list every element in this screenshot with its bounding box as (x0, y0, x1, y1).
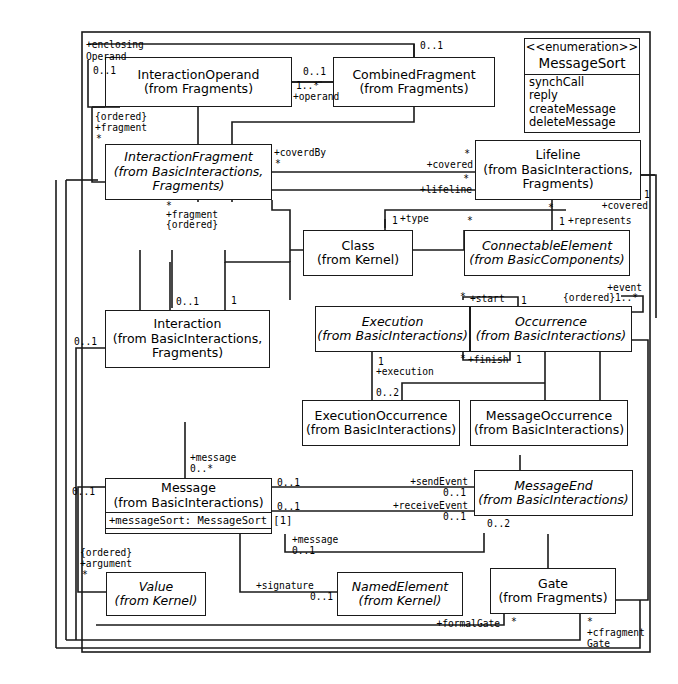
class-name-compartment: Execution (from BasicInteractions) (316, 307, 469, 351)
class-package: (from BasicInteractions) (474, 423, 624, 438)
class-package-2: Fragments) (522, 177, 593, 192)
class-box-message[interactable]: Message (from BasicInteractions) +messag… (105, 478, 272, 534)
class-package-2: Fragments) (152, 179, 224, 194)
class-box-messageoccurrence[interactable]: MessageOccurrence (from BasicInteraction… (470, 400, 628, 446)
class-package: (from Fragments) (359, 82, 468, 97)
class-box-interactionfragment[interactable]: InteractionFragment (from BasicInteracti… (105, 144, 272, 200)
edge-label-fragment2-ordered: {ordered} (166, 220, 218, 231)
class-box-executionoccurrence[interactable]: ExecutionOccurrence (from BasicInteracti… (302, 400, 460, 446)
class-name: NamedElement (352, 580, 449, 595)
enumeration-box-messagesort[interactable]: <<enumeration>> MessageSort synchCall re… (524, 38, 640, 133)
class-package: (from Kernel) (359, 594, 442, 609)
edge-label-enclosing-operand: +enclosing (86, 40, 144, 51)
class-package: (from BasicInteractions) (317, 329, 468, 344)
edge-label-operand-role: +operand (293, 92, 339, 103)
class-package: (from Kernel) (317, 253, 399, 268)
edge-label-start-mult: 1 (521, 296, 527, 307)
enumeration-literal: synchCall (529, 76, 639, 90)
edge-label-lifeline-star: * (400, 174, 469, 185)
class-name-compartment: Class (from Kernel) (304, 231, 412, 275)
edge-label-finish-star: * (460, 354, 466, 365)
edge-label-formalgate-role: +formalGate (420, 619, 500, 630)
class-box-interactionoperand[interactable]: InteractionOperand (from Fragments) (105, 57, 292, 107)
class-name-compartment: Lifeline (from BasicInteractions, Fragme… (476, 141, 640, 199)
class-package: (from BasicInteractions) (478, 493, 629, 508)
class-name: Interaction (154, 317, 222, 332)
class-name: MessageEnd (514, 479, 593, 494)
edge-label-lifeline-covered-mult: 1 (644, 190, 650, 201)
class-name-compartment: Message (from BasicInteractions) (106, 479, 271, 512)
edge-label-enclosing-operand-2: Operand (86, 52, 126, 63)
class-box-messageend[interactable]: MessageEnd (from BasicInteractions) (474, 470, 633, 516)
edge-label-start-role: +start (470, 294, 505, 305)
class-package: (from BasicInteractions, (483, 163, 632, 178)
class-name-compartment: InteractionOperand (from Fragments) (106, 58, 291, 106)
class-package: (from BasicComponents) (469, 253, 624, 268)
edge-label-type-mult: 1 (392, 216, 398, 227)
edge-label-represents-mult: 1 (559, 217, 565, 228)
edge-label-fragment-star: * (96, 134, 102, 145)
class-package: (from Fragments) (498, 591, 607, 606)
edge-label-type-role: +type (400, 214, 429, 225)
edge-label-message2-role: +message (292, 535, 338, 546)
class-package: (from BasicInteractions) (476, 329, 627, 344)
edge-label-execution-star: * (460, 292, 466, 303)
class-name-compartment: NamedElement (from Kernel) (338, 573, 462, 615)
class-name: Gate (538, 577, 568, 592)
edge-label-interaction-mult: 0..1 (176, 297, 199, 308)
edge-label-event-mult: 1..* (615, 293, 638, 304)
edge-execocc-rail (402, 383, 545, 400)
class-box-execution[interactable]: Execution (from BasicInteractions) (315, 306, 470, 352)
class-box-combinedfragment[interactable]: CombinedFragment (from Fragments) (333, 57, 495, 107)
class-box-value[interactable]: Value (from Kernel) (106, 572, 206, 616)
class-name: Class (342, 239, 375, 254)
edge-label-cfragmentgate-role: +cfragment (587, 628, 645, 639)
edge-label-represents-role: +represents (568, 216, 632, 227)
class-box-gate[interactable]: Gate (from Fragments) (490, 568, 616, 614)
class-box-interaction[interactable]: Interaction (from BasicInteractions, Fra… (105, 310, 270, 368)
edge-label-fragment-ordered: {ordered} (95, 112, 147, 123)
class-box-class[interactable]: Class (from Kernel) (303, 230, 413, 276)
edge-label-argument-star: * (82, 570, 88, 581)
edge-label-receiveevent-role: +receiveEvent (380, 501, 468, 512)
class-package: (from BasicInteractions) (306, 423, 456, 438)
uml-class-diagram: InteractionOperand --> Lifeline --> Inte… (0, 0, 678, 684)
edge-label-sendevent-mult: 0..1 (396, 488, 466, 499)
class-name: Occurrence (515, 315, 587, 330)
edge-label-interaction-left-mult: 0..1 (74, 337, 97, 348)
edge-label-interaction-mult2: 1 (231, 296, 237, 307)
edge-label-lifeline-star2: * (548, 203, 554, 214)
edge-label-enclosing-operand-mult: 0..1 (93, 66, 116, 77)
edge-label-lifeline-role: +lifeline (400, 185, 472, 196)
class-box-namedelement[interactable]: NamedElement (from Kernel) (337, 572, 463, 616)
class-box-lifeline[interactable]: Lifeline (from BasicInteractions, Fragme… (475, 140, 641, 200)
edge-label-message2-mult: 0..1 (292, 546, 315, 557)
class-box-connectableelement[interactable]: ConnectableElement (from BasicComponents… (464, 230, 630, 276)
class-name-compartment: Gate (from Fragments) (491, 569, 615, 613)
edge-label-messageend-mult: 0..2 (487, 519, 510, 530)
class-name: InteractionFragment (124, 150, 252, 165)
class-name-compartment: CombinedFragment (from Fragments) (334, 58, 494, 106)
class-name: Message (161, 481, 216, 496)
edge-label-sendevent-role: +sendEvent (396, 477, 468, 488)
edge-label-coverdby-star: * (275, 159, 281, 170)
class-name: MessageOccurrence (486, 409, 612, 424)
enumeration-literal: deleteMessage (529, 116, 639, 130)
class-name: Execution (362, 315, 424, 330)
edge-label-operand-mult: 1..* (296, 81, 319, 92)
class-name-compartment: MessageEnd (from BasicInteractions) (475, 471, 632, 515)
edge-label-cfragment-star: * (587, 617, 593, 628)
class-box-occurrence[interactable]: Occurrence (from BasicInteractions) (470, 306, 632, 352)
class-name-compartment: ConnectableElement (from BasicComponents… (465, 231, 629, 275)
edge-label-signature-role: +signature (256, 581, 314, 592)
stereotype-label: <<enumeration>> (526, 41, 638, 55)
class-package: (from BasicInteractions) (113, 496, 263, 511)
edge-label-combinedfragment-left-mult: 0..1 (303, 67, 326, 78)
edge-label-connectable-star: * (467, 216, 473, 227)
class-package-2: Fragments) (152, 346, 223, 361)
class-name-compartment: InteractionFragment (from BasicInteracti… (106, 145, 271, 199)
class-package: (from Fragments) (144, 82, 253, 97)
edge-label-fragment-role: +fragment (95, 123, 147, 134)
edge-label-sendevent-mult-src: 0..1 (277, 478, 300, 489)
edge-label-argument-role: +argument (80, 559, 132, 570)
